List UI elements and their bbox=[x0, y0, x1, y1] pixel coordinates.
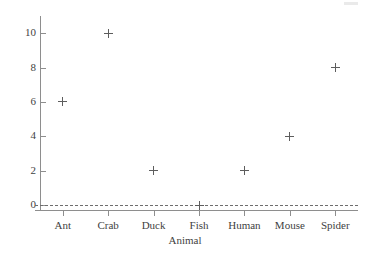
x-tick-mark bbox=[63, 211, 64, 216]
scan-artifact bbox=[344, 2, 358, 5]
y-tick-label: 6 bbox=[18, 96, 36, 108]
y-tick-label-text: 10 bbox=[22, 27, 36, 38]
x-tick-mark bbox=[244, 211, 245, 216]
y-axis-line bbox=[40, 16, 41, 210]
data-point bbox=[149, 166, 158, 175]
y-tick-label: 4 bbox=[18, 130, 36, 142]
y-tick-mark bbox=[41, 102, 46, 103]
x-tick-mark bbox=[290, 211, 291, 216]
x-axis-title: Animal bbox=[0, 234, 370, 246]
y-tick-mark bbox=[41, 136, 46, 137]
y-tick-label: 8 bbox=[18, 62, 36, 74]
x-axis-line bbox=[35, 210, 358, 211]
y-tick-label: 2 bbox=[18, 165, 36, 177]
x-tick-mark bbox=[108, 211, 109, 216]
y-tick-mark bbox=[41, 68, 46, 69]
y-tick-label: 10 bbox=[18, 27, 36, 39]
x-tick-label: Spider bbox=[300, 219, 370, 231]
y-tick-label-text: 8 bbox=[22, 62, 36, 73]
x-tick-mark bbox=[154, 211, 155, 216]
y-tick-label-text: 2 bbox=[22, 165, 36, 176]
data-point bbox=[331, 63, 340, 72]
y-tick-label-text: 6 bbox=[22, 96, 36, 107]
y-tick-mark bbox=[41, 33, 46, 34]
y-tick-mark bbox=[41, 171, 46, 172]
scatter-chart: Number of legs Animal 0246810 AntCrabDuc… bbox=[0, 0, 370, 261]
data-point bbox=[285, 132, 294, 141]
data-point bbox=[195, 201, 204, 210]
x-tick-mark bbox=[199, 211, 200, 216]
y-tick-label: 0 bbox=[18, 199, 36, 211]
x-tick-mark bbox=[335, 211, 336, 216]
y-tick-label-text: 0 bbox=[22, 199, 36, 210]
y-tick-label-text: 4 bbox=[22, 130, 36, 141]
data-point bbox=[58, 97, 67, 106]
data-point bbox=[240, 166, 249, 175]
data-point bbox=[104, 29, 113, 38]
